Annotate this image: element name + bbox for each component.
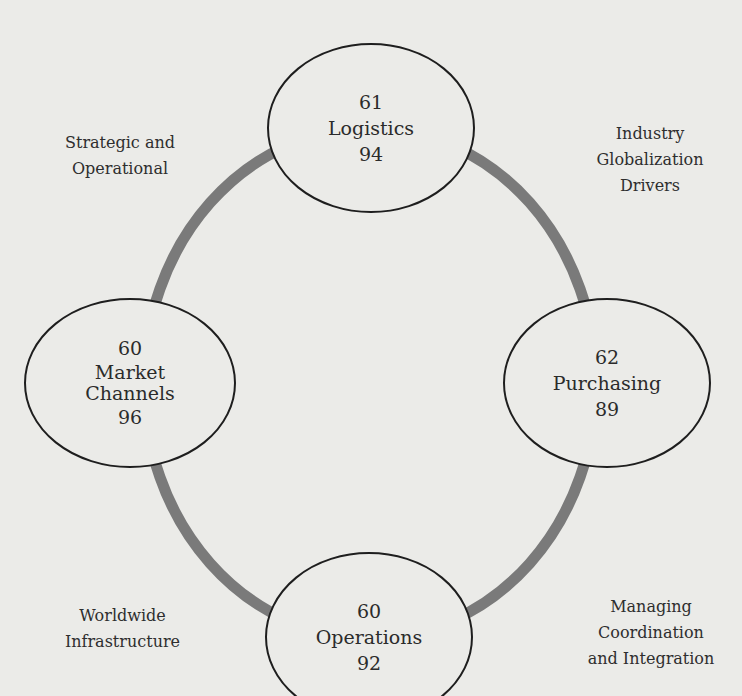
corner-label-line: Globalization	[565, 147, 735, 173]
corner-label-line: Strategic and	[40, 130, 200, 156]
corner-label-line: Managing	[565, 594, 737, 620]
corner-label-worldwide-infrastructure: Worldwide Infrastructure	[40, 603, 205, 655]
node-logistics[interactable]: 61 Logistics 94	[268, 44, 474, 212]
node-label: Purchasing	[553, 372, 662, 395]
corner-label-line: Infrastructure	[40, 629, 205, 655]
node-bottom-value: 94	[359, 143, 383, 166]
corner-label-line: Industry	[565, 121, 735, 147]
node-top-value: 60	[357, 600, 381, 623]
node-bottom-value: 89	[595, 398, 619, 421]
corner-label-managing-coordination-integration: Managing Coordination and Integration	[565, 594, 737, 672]
corner-label-line: Coordination	[565, 620, 737, 646]
node-label: Logistics	[328, 117, 414, 140]
node-top-value: 62	[595, 346, 619, 369]
node-market-channels[interactable]: 60 Market Channels 96	[25, 299, 235, 467]
corner-label-line: Operational	[40, 156, 200, 182]
corner-label-industry-globalization-drivers: Industry Globalization Drivers	[565, 121, 735, 199]
corner-label-line: and Integration	[565, 646, 737, 672]
corner-label-line: Drivers	[565, 173, 735, 199]
diagram-canvas: 61 Logistics 94 60 Market Channels 96 62…	[0, 0, 742, 696]
node-bottom-value: 96	[118, 407, 142, 428]
node-operations[interactable]: 60 Operations 92	[266, 553, 472, 696]
corner-label-line: Worldwide	[40, 603, 205, 629]
node-label: Operations	[316, 626, 423, 649]
corner-label-strategic-operational: Strategic and Operational	[40, 130, 200, 182]
node-label-line-2: Channels	[85, 383, 175, 404]
node-top-value: 60	[118, 338, 142, 359]
node-purchasing[interactable]: 62 Purchasing 89	[504, 299, 710, 467]
node-top-value: 61	[359, 91, 383, 114]
node-label-line-1: Market	[95, 362, 165, 383]
node-bottom-value: 92	[357, 652, 381, 675]
